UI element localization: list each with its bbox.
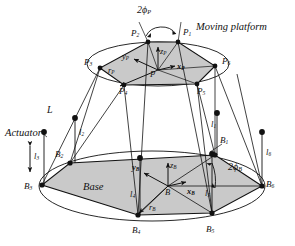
- moving-platform-label: Moving platform: [196, 22, 267, 33]
- rp-sub: P: [111, 69, 114, 75]
- base-y-axis-label: yB: [132, 163, 139, 172]
- yb-sub: B: [136, 166, 140, 172]
- rb-sub: B: [152, 206, 155, 212]
- actuator-length-l1: l1: [211, 120, 216, 129]
- l1-sub: 1: [213, 123, 216, 129]
- p2-sub: 2: [137, 32, 140, 38]
- platform-vertex-p2: P2: [131, 29, 139, 39]
- actuator-length-l2: l2: [79, 128, 84, 137]
- actuator-label: Actuator: [5, 128, 42, 139]
- b3-sub: 3: [30, 185, 33, 191]
- actuator-length-l3: l3: [34, 152, 39, 161]
- b4-sub: 4: [138, 229, 141, 235]
- platform-vertex-p6: P6: [222, 57, 230, 67]
- base-half-angle-label: 2ϕB: [228, 162, 242, 172]
- yp-sub: P: [126, 55, 129, 61]
- base-z-axis-label: zB: [170, 161, 177, 170]
- base-vertex-b2: B2: [55, 150, 63, 160]
- platform-y-axis-label: yP: [122, 52, 129, 61]
- base-label: Base: [83, 182, 103, 193]
- zp-sub: P: [163, 50, 166, 56]
- xp-sub: P: [181, 65, 184, 71]
- base-vertex-b5: B5: [206, 225, 214, 235]
- platform-vertex-p5: P5: [197, 87, 205, 97]
- b6-sub: 6: [272, 183, 275, 189]
- p1-sub: 1: [189, 31, 192, 37]
- platform-half-angle-sub: P: [147, 8, 151, 15]
- base-vertex-b1: B1: [220, 136, 228, 146]
- base-origin-label: B: [165, 188, 170, 197]
- l5-sub: 5: [207, 192, 210, 198]
- base-vertex-b6: B6: [266, 180, 274, 190]
- base-half-angle-text: 2ϕ: [228, 161, 238, 172]
- platform-z-axis-label: zP: [160, 47, 167, 56]
- l4-sub: 4: [132, 193, 135, 199]
- diagram-canvas: [0, 0, 295, 246]
- platform-origin-label: P: [150, 70, 155, 79]
- base-radius-label: rB: [149, 203, 156, 212]
- stewart-platform-diagram: Moving platform Base Actuator L 2ϕP 2ϕB …: [0, 0, 295, 246]
- actuator-length-l4: l4: [130, 190, 135, 199]
- p6-sub: 6: [228, 60, 231, 66]
- actuator-length-l6: l6: [266, 148, 271, 157]
- platform-half-angle-text: 2ϕ: [137, 4, 147, 15]
- xb-sub: B: [191, 190, 195, 196]
- zb-sub: B: [173, 164, 176, 170]
- actuator-length-l5: l5: [205, 189, 210, 198]
- platform-x-axis-label: xP: [177, 62, 184, 71]
- p3-sub: 3: [90, 61, 93, 67]
- base-vertex-b3: B3: [24, 182, 32, 192]
- platform-vertex-p3: P3: [84, 58, 92, 68]
- p5-sub: 5: [203, 90, 206, 96]
- platform-vertex-p4: P4: [119, 87, 127, 97]
- platform-vertex-p1: P1: [183, 28, 191, 38]
- base-half-angle-sub: B: [238, 165, 242, 172]
- leg-length-label: L: [47, 105, 53, 115]
- l3-sub: 3: [36, 155, 39, 161]
- l6-sub: 6: [268, 151, 271, 157]
- platform-angle-arc: [139, 22, 181, 42]
- b5-sub: 5: [212, 228, 215, 234]
- p4-sub: 4: [125, 90, 128, 96]
- base-x-axis-label: xB: [187, 187, 195, 196]
- platform-radius-label: rP: [108, 66, 115, 75]
- b2-sub: 2: [61, 153, 64, 159]
- l2-sub: 2: [81, 131, 84, 137]
- base-vertex-b4: B4: [132, 226, 140, 236]
- b1-sub: 1: [226, 139, 229, 145]
- platform-half-angle-label: 2ϕP: [137, 5, 151, 15]
